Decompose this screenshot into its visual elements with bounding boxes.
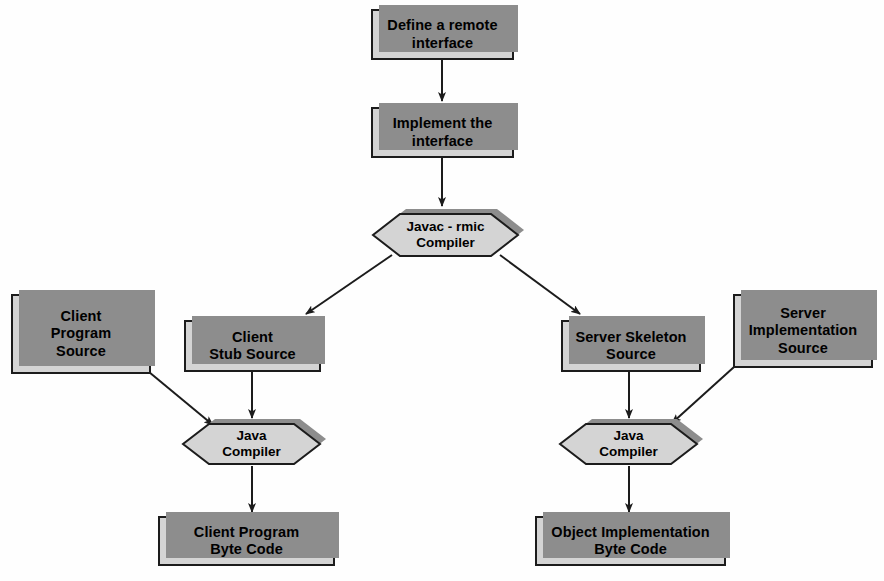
node-implement-interface-label: Implement the interface [389, 115, 497, 149]
node-java-compiler-right[interactable]: Java Compiler [559, 421, 698, 467]
edge-rmic-to-client-stub [306, 255, 392, 314]
edge-server-impl-to-java-compiler-right [672, 367, 734, 423]
node-javac-rmic-compiler[interactable]: Javac - rmic Compiler [372, 211, 519, 259]
node-implement-interface[interactable]: Implement the interface [371, 107, 514, 158]
node-define-remote-interface-label: Define a remote interface [383, 17, 501, 51]
node-define-remote-interface[interactable]: Define a remote interface [371, 9, 514, 60]
node-server-implementation-source[interactable]: Server Implementation Source [733, 294, 873, 368]
node-object-implementation-byte-code[interactable]: Object Implementation Byte Code [535, 516, 726, 566]
node-java-compiler-left[interactable]: Java Compiler [182, 421, 321, 467]
node-java-compiler-left-label: Java Compiler [182, 421, 321, 467]
node-server-skeleton-source[interactable]: Server Skeleton Source [561, 320, 701, 372]
node-server-skeleton-source-label: Server Skeleton Source [571, 329, 690, 363]
node-java-compiler-right-label: Java Compiler [559, 421, 698, 467]
node-client-program-source-label: Client Program Source [47, 308, 115, 359]
edge-client-program-to-java-compiler-left [149, 372, 213, 425]
node-client-stub-source[interactable]: Client Stub Source [184, 320, 321, 372]
node-client-stub-source-label: Client Stub Source [205, 329, 300, 363]
node-client-program-source[interactable]: Client Program Source [11, 294, 151, 374]
node-server-implementation-source-label: Server Implementation Source [745, 305, 862, 356]
node-javac-rmic-compiler-label: Javac - rmic Compiler [372, 211, 519, 259]
flowchart-canvas: Define a remote interface Implement the … [0, 0, 884, 581]
edge-rmic-to-server-skeleton [500, 255, 580, 314]
node-object-implementation-byte-code-label: Object Implementation Byte Code [547, 524, 713, 558]
node-client-program-byte-code[interactable]: Client Program Byte Code [158, 516, 335, 566]
node-client-program-byte-code-label: Client Program Byte Code [190, 524, 303, 558]
